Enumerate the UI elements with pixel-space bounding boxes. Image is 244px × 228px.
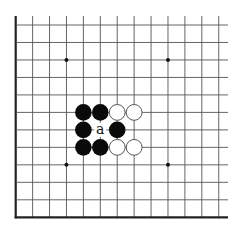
star-point xyxy=(166,58,170,62)
white-stone xyxy=(109,105,125,121)
black-stone xyxy=(75,122,92,139)
black-stone xyxy=(75,104,92,121)
point-label-a: a xyxy=(96,121,104,137)
black-stone xyxy=(92,104,109,121)
go-board-diagram: a xyxy=(0,0,244,228)
star-point xyxy=(64,58,68,62)
white-stone xyxy=(126,139,142,155)
black-stone xyxy=(109,122,126,139)
go-board-svg: a xyxy=(0,0,244,228)
star-point xyxy=(64,163,68,167)
white-stone xyxy=(109,139,125,155)
white-stone xyxy=(126,105,142,121)
labels-layer: a xyxy=(94,121,106,137)
black-stone xyxy=(75,139,92,156)
star-point xyxy=(166,163,170,167)
black-stone xyxy=(92,139,109,156)
